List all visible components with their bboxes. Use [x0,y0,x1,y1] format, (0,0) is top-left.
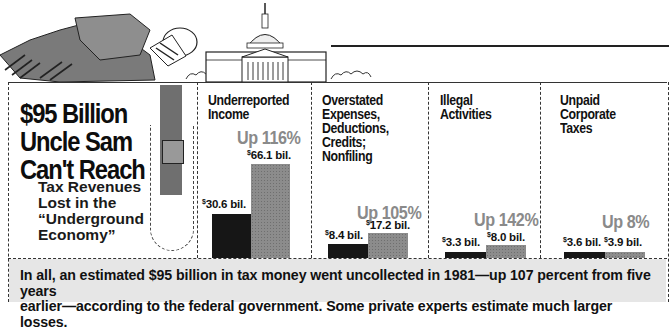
category-title: Illegal Activities [440,93,491,121]
value-label-1981: $3.9 bil. [604,236,642,248]
change-label: Up 116% [237,127,300,149]
category-title-line: Income [208,107,289,121]
value-text: 66.1 bil. [251,149,291,161]
value-label-1976: $30.6 bil. [202,198,246,210]
value-label-1981: $17.2 bil. [366,219,410,231]
footer-line: In all, an estimated $95 billion in tax … [20,268,660,299]
change-label: Up 8% [602,211,649,233]
value-text: 3.9 bil. [608,236,642,248]
category-title: Overstated Expenses, Deductions, Credits… [322,93,389,163]
value-label-1981: $8.0 bil. [487,231,525,243]
column-divider [540,82,541,258]
uncle-sam-capitol-illustration [0,0,669,85]
title-line: Uncle Sam [20,128,170,156]
footer-line: earlier—according to the federal governm… [20,299,660,330]
category-title: Underreported Income [208,93,289,121]
subtitle-line: “Underground [38,211,188,227]
value-text: 3.3 bil. [446,236,480,248]
value-label-1976: $3.3 bil. [442,236,480,248]
value-text: 30.6 bil. [206,198,246,210]
category-title-line: Taxes [560,121,616,135]
subtitle: Tax Revenues Lost in the “Underground Ec… [38,179,188,243]
value-label-1981: $66.1 bil. [247,149,291,161]
value-label-1976: $8.4 bil. [325,229,363,241]
footer-note: In all, an estimated $95 billion in tax … [20,268,660,330]
bar-1981 [368,233,408,258]
subtitle-line: Tax Revenues [38,179,188,195]
bar-1981 [486,245,526,258]
value-text: 8.4 bil. [329,229,363,241]
header-rule [331,45,669,47]
column-divider [428,82,429,258]
category-title-line: Activities [440,107,491,121]
category-title: Unpaid Corporate Taxes [560,93,616,135]
bar-1976 [212,214,251,258]
value-label-1976: $3.6 bil. [563,236,601,248]
column-divider [197,82,198,258]
page-title: $95 Billion Uncle Sam Can't Reach [20,100,170,184]
bar-1981 [251,164,290,258]
subtitle-line: Lost in the [38,195,188,211]
category-title-line: Nonfiling [322,149,389,163]
value-text: 8.0 bil. [491,231,525,243]
value-text: 17.2 bil. [370,219,410,231]
change-label: Up 142% [474,209,538,231]
title-line: $95 Billion [20,100,170,128]
subtitle-line: Economy” [38,227,188,243]
bar-1976 [328,244,368,258]
value-text: 3.6 bil. [567,236,601,248]
column-divider [311,82,312,258]
